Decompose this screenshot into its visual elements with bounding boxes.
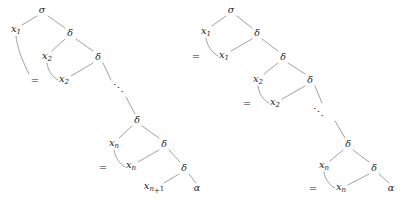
node-xn-upper-subscript: n xyxy=(325,164,330,172)
edge-d3-xn xyxy=(119,126,132,138)
edge-sigma-d1 xyxy=(237,16,252,28)
hook-group xyxy=(16,36,335,188)
node-x1-subscript: 1 xyxy=(17,28,21,36)
node-xn-lower-subscript: n xyxy=(342,186,347,194)
hook-xn-equals xyxy=(114,150,125,167)
hook-x2-equals xyxy=(258,86,269,103)
node-alpha: α xyxy=(194,183,200,193)
edge-d4-d5 xyxy=(353,150,369,162)
edge-d4-xnb xyxy=(138,150,159,162)
edge-d3-d4 xyxy=(142,126,159,138)
edge-ellipsis-d4 xyxy=(335,121,345,138)
edge-d1-x1b xyxy=(231,39,252,51)
edge-sigma-x1 xyxy=(212,16,226,26)
node-delta-4: δ xyxy=(161,139,167,149)
node-x1-lower-subscript: 1 xyxy=(225,54,229,62)
hook-xn-equals xyxy=(324,172,335,188)
equals-sign-2: = xyxy=(99,163,107,173)
node-x2-lower: x2 xyxy=(270,97,280,109)
edge-d1-d2 xyxy=(76,39,93,51)
node-x2-lower-subscript: 2 xyxy=(276,101,280,109)
node-x1-lower: x1 xyxy=(219,50,229,62)
figure-canvas: σx1δx2δ=x2δxnδ=xnδxn+1α⋱σx1δ=x1δx2δ=x2δx… xyxy=(0,0,411,202)
edge-d1-x2 xyxy=(52,39,65,51)
equals-sign-1: = xyxy=(31,76,39,86)
node-xn-upper-subscript: n xyxy=(115,142,120,150)
node-delta-3: δ xyxy=(134,115,140,125)
edge-d5-xnb xyxy=(348,174,369,185)
node-x2-upper: x2 xyxy=(42,51,52,63)
hook-x1-equals xyxy=(206,38,218,56)
node-alpha: α xyxy=(388,183,394,193)
node-delta-5: δ xyxy=(371,163,377,173)
hook-x1-equals xyxy=(16,36,29,74)
node-xn-lower-subscript: n xyxy=(132,164,137,172)
node-xn-upper: xn xyxy=(319,160,329,172)
edge-d3-ellipsis xyxy=(315,86,322,103)
edge-d4-d5 xyxy=(169,150,180,162)
edge-group xyxy=(22,16,389,185)
node-x2-lower: x2 xyxy=(59,74,69,86)
node-x1-upper-subscript: 1 xyxy=(207,30,211,38)
node-xn-lower: xn xyxy=(336,182,346,194)
node-xn-plus-1-subscript: n+1 xyxy=(149,185,164,193)
node-x1: x1 xyxy=(11,24,21,36)
node-delta-2: δ xyxy=(95,52,101,62)
equals-sign-1: = xyxy=(192,52,200,62)
equals-sign-3: = xyxy=(309,184,317,194)
edge-d2-d3 xyxy=(288,63,305,74)
ellipsis-right: ⋱ xyxy=(313,107,324,118)
ellipsis-left: ⋱ xyxy=(113,83,124,94)
node-delta-4: δ xyxy=(345,139,351,149)
edge-d4-xn xyxy=(330,150,343,161)
node-x1-upper: x1 xyxy=(201,26,211,38)
edge-sigma-x1 xyxy=(22,16,37,25)
edge-d2-ellipsis xyxy=(103,63,111,80)
hook-x2-equals xyxy=(47,63,58,80)
equals-sign-2: = xyxy=(243,99,251,109)
node-x2-upper: x2 xyxy=(253,74,263,86)
edge-d5-xn1 xyxy=(164,174,179,183)
node-sigma: σ xyxy=(39,5,46,15)
node-delta-3: δ xyxy=(307,75,313,85)
node-delta-1: δ xyxy=(254,28,260,38)
node-xn-upper: xn xyxy=(109,138,119,150)
edge-d2-x2b xyxy=(71,63,93,76)
node-x2-upper-subscript: 2 xyxy=(48,55,52,63)
edge-d2-x2a xyxy=(264,63,278,74)
edge-ellipsis-d3 xyxy=(126,97,135,114)
edge-d3-x2b xyxy=(282,86,305,99)
node-x2-lower-subscript: 2 xyxy=(65,78,69,86)
node-xn-plus-1: xn+1 xyxy=(144,181,165,195)
node-delta-5: δ xyxy=(181,163,187,173)
node-delta-1: δ xyxy=(67,28,73,38)
edge-d1-d2 xyxy=(262,39,278,51)
node-xn-lower: xn xyxy=(126,160,136,172)
edge-sigma-d1 xyxy=(48,16,65,28)
node-x2-upper-subscript: 2 xyxy=(259,78,263,86)
node-sigma: σ xyxy=(228,5,235,15)
node-delta-2: δ xyxy=(280,52,286,62)
